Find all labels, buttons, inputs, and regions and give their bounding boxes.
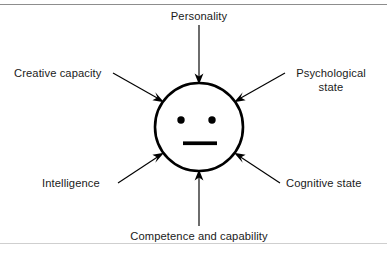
concept-diagram: Personality Creative capacity Psychologi… xyxy=(0,0,387,258)
label-creative-capacity: Creative capacity xyxy=(14,67,102,79)
label-psychological-state-line2: state xyxy=(319,81,344,93)
arrow-intelligence xyxy=(118,153,164,183)
left-eye-icon xyxy=(177,116,184,123)
face-outline-circle xyxy=(155,83,243,171)
right-eye-icon xyxy=(208,116,215,123)
arrow-personality xyxy=(195,25,204,85)
diagram-canvas: Personality Creative capacity Psychologi… xyxy=(0,0,387,258)
arrow-competence xyxy=(195,170,204,227)
label-competence-and-capability: Competence and capability xyxy=(130,230,268,242)
label-intelligence: Intelligence xyxy=(42,177,100,189)
mouth-icon xyxy=(183,141,217,145)
arrow-psychological-state xyxy=(234,73,285,102)
label-cognitive-state: Cognitive state xyxy=(286,177,362,189)
person-face-node xyxy=(155,83,243,171)
label-psychological-state-line1: Psychological xyxy=(296,67,366,79)
arrow-creative-capacity xyxy=(113,73,164,102)
label-personality: Personality xyxy=(171,10,228,22)
arrow-cognitive-state xyxy=(234,153,280,183)
